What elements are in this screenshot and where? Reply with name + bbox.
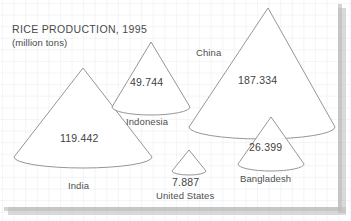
country-label-bangladesh: Bangladesh xyxy=(240,173,291,184)
value-label-india: 119.442 xyxy=(60,132,99,144)
country-label-indonesia: Indonesia xyxy=(126,116,168,127)
value-label-bangladesh: 26.399 xyxy=(249,141,282,153)
country-label-united-states: United States xyxy=(156,190,214,201)
value-label-china: 187.334 xyxy=(238,74,277,86)
rice-production-chart-figure: RICE PRODUCTION, 1995 (million tons) 187… xyxy=(0,0,351,221)
value-label-united-states: 7.887 xyxy=(172,176,199,188)
cone-shape-united-states xyxy=(172,150,206,175)
country-label-india: India xyxy=(68,180,89,191)
chart-title: RICE PRODUCTION, 1995 xyxy=(12,23,147,35)
country-label-china: China xyxy=(196,47,221,58)
chart-subtitle: (million tons) xyxy=(12,37,67,48)
value-label-indonesia: 49.744 xyxy=(130,76,163,88)
